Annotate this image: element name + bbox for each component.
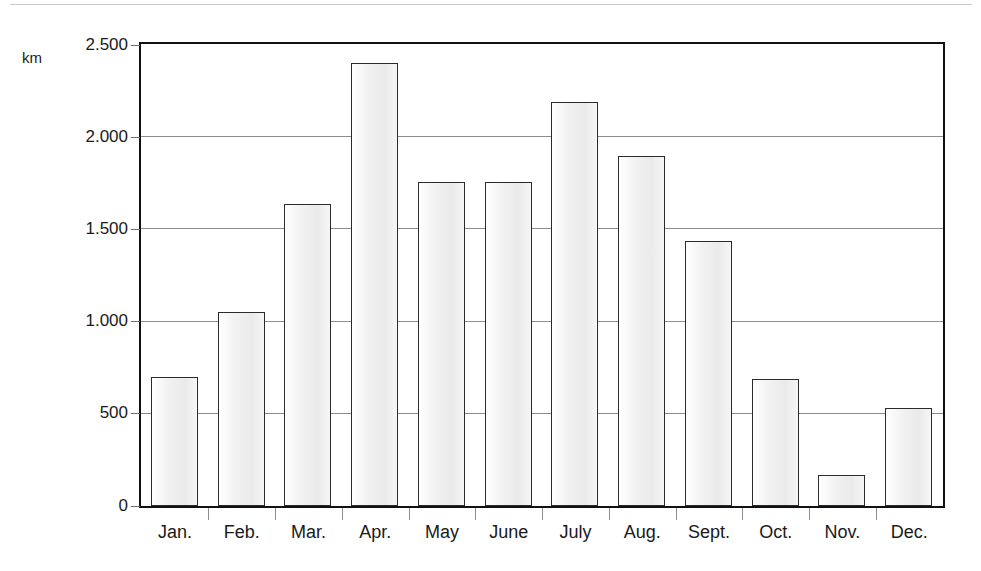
chart-figure: km 05001.0001.5002.0002.500Jan.Feb.Mar.A… — [0, 0, 981, 571]
y-axis-tick-label: 0 — [36, 497, 128, 514]
y-axis-tick-label: 1.000 — [36, 312, 128, 329]
y-axis-tick-mark — [131, 413, 140, 414]
bar[interactable] — [485, 182, 532, 507]
bar[interactable] — [618, 156, 665, 506]
bar[interactable] — [885, 408, 932, 506]
bar[interactable] — [685, 241, 732, 507]
bar[interactable] — [284, 204, 331, 506]
bar[interactable] — [752, 379, 799, 506]
x-axis-tick-mark — [342, 508, 343, 520]
bar[interactable] — [818, 475, 865, 506]
bar[interactable] — [351, 63, 398, 506]
y-axis-tick-label: 2.500 — [36, 36, 128, 53]
y-axis-tick-mark — [131, 137, 140, 138]
bar-series — [141, 44, 943, 506]
y-axis-tick-mark — [131, 45, 140, 46]
y-axis-tick-mark — [131, 229, 140, 230]
x-axis-tick-mark — [676, 508, 677, 520]
y-axis-tick-label: 1.500 — [36, 220, 128, 237]
x-axis-tick-mark — [809, 508, 810, 520]
bar[interactable] — [218, 312, 265, 506]
y-axis-tick-mark — [131, 506, 140, 507]
plot-area — [139, 42, 945, 508]
top-divider-rule — [10, 4, 972, 5]
y-axis-tick-mark — [131, 321, 140, 322]
y-axis-tick-label: 500 — [36, 404, 128, 421]
x-axis-tick-label: Dec. — [870, 521, 949, 543]
x-axis-tick-mark — [876, 508, 877, 520]
bar[interactable] — [418, 182, 465, 507]
x-axis-tick-mark — [409, 508, 410, 520]
y-axis-tick-label: 2.000 — [36, 128, 128, 145]
bar[interactable] — [551, 102, 598, 506]
x-axis-tick-mark — [208, 508, 209, 520]
x-axis-tick-mark — [475, 508, 476, 520]
bar[interactable] — [151, 377, 198, 506]
x-axis-tick-mark — [609, 508, 610, 520]
x-axis-tick-mark — [542, 508, 543, 520]
x-axis-tick-mark — [742, 508, 743, 520]
x-axis-tick-mark — [275, 508, 276, 520]
